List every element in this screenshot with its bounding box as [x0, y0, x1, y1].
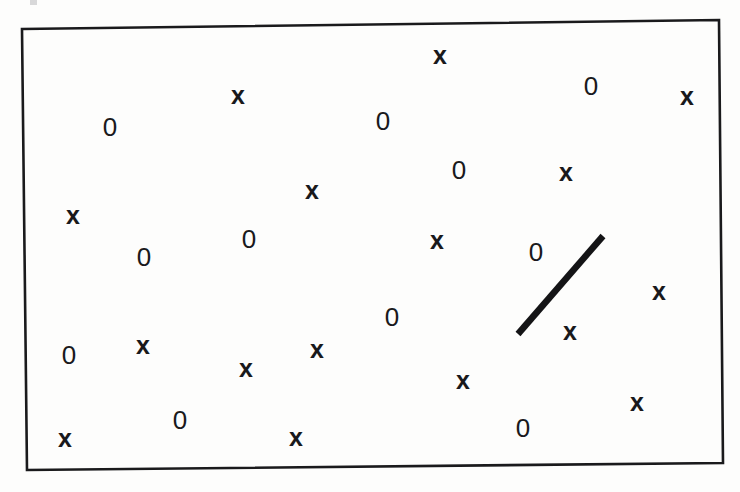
- symbol-ex: x: [630, 390, 644, 415]
- symbol-zero: 0: [529, 239, 543, 265]
- symbol-ex: x: [289, 425, 303, 450]
- symbol-ex: x: [231, 83, 245, 108]
- figure-canvas: x0xx000xxx0x00x0xxx0xxx00xx: [0, 0, 740, 492]
- symbol-zero: 0: [584, 73, 598, 99]
- symbol-ex: x: [239, 356, 253, 381]
- symbol-ex: x: [305, 178, 319, 203]
- symbol-zero: 0: [376, 108, 390, 134]
- symbol-ex: x: [433, 43, 447, 68]
- symbol-zero: 0: [173, 407, 187, 433]
- symbol-zero: 0: [137, 244, 151, 270]
- symbol-ex: x: [136, 333, 150, 358]
- symbol-zero: 0: [452, 157, 466, 183]
- symbol-ex: x: [310, 337, 324, 362]
- symbol-ex: x: [652, 279, 666, 304]
- symbol-ex: x: [680, 84, 694, 109]
- diagonal-line-segment: [0, 0, 740, 492]
- symbol-ex: x: [58, 426, 72, 451]
- scan-speck: [30, 0, 37, 5]
- symbol-ex: x: [66, 203, 80, 228]
- symbol-ex: x: [430, 228, 444, 253]
- symbol-zero: 0: [385, 304, 399, 330]
- symbol-zero: 0: [516, 415, 530, 441]
- symbol-zero: 0: [242, 226, 256, 252]
- symbol-zero: 0: [103, 114, 117, 140]
- symbol-zero: 0: [62, 342, 76, 368]
- symbol-ex: x: [563, 319, 577, 344]
- symbol-ex: x: [559, 160, 573, 185]
- symbol-ex: x: [456, 368, 470, 393]
